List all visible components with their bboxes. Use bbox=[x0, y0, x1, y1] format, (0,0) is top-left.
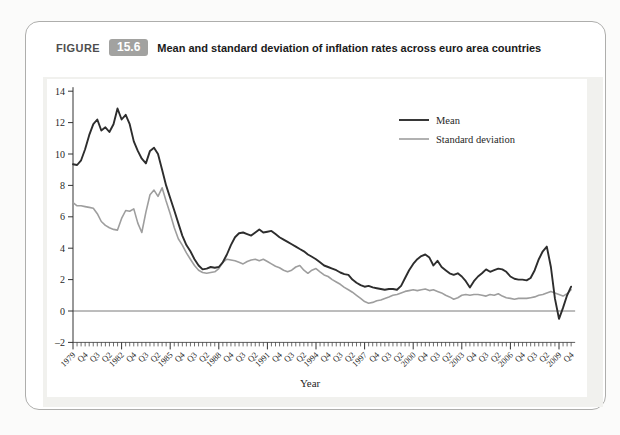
series-line-standard-deviation bbox=[73, 188, 571, 303]
figure-header: FIGURE 15.6 Mean and standard deviation … bbox=[56, 39, 593, 56]
x-tick-label: 1988 bbox=[204, 350, 223, 369]
legend-label-standard-deviation: Standard deviation bbox=[436, 134, 516, 145]
x-tick-label: 1994 bbox=[301, 349, 321, 369]
x-tick-label: 1985 bbox=[156, 350, 175, 369]
legend-label-mean: Mean bbox=[436, 115, 461, 126]
y-tick-label: 0 bbox=[60, 306, 65, 317]
y-tick-label: 12 bbox=[55, 117, 65, 128]
x-axis-title: Year bbox=[300, 377, 321, 389]
x-tick-label: 1997 bbox=[350, 350, 369, 369]
y-tick-label: 10 bbox=[55, 149, 65, 160]
inflation-chart: 14121086420–21979Q4Q3Q21982Q4Q3Q21985Q4Q… bbox=[47, 79, 587, 397]
y-tick-label: 4 bbox=[60, 243, 65, 254]
x-tick-label: 2003 bbox=[447, 350, 466, 369]
figure-card: FIGURE 15.6 Mean and standard deviation … bbox=[25, 21, 606, 410]
plot-area: 14121086420–21979Q4Q3Q21982Q4Q3Q21985Q4Q… bbox=[47, 79, 587, 397]
x-tick-label: 1991 bbox=[253, 350, 272, 369]
y-tick-label: 2 bbox=[60, 274, 65, 285]
x-tick-label: 1982 bbox=[107, 350, 126, 369]
y-tick-label: 6 bbox=[60, 211, 65, 222]
figure-title: Mean and standard deviation of inflation… bbox=[157, 42, 541, 54]
figure-number-badge: 15.6 bbox=[109, 39, 148, 56]
x-tick-label: 2009 bbox=[544, 350, 563, 369]
x-tick-label: 2000 bbox=[399, 350, 418, 369]
figure-label: FIGURE bbox=[56, 42, 100, 54]
y-tick-label: 8 bbox=[60, 180, 65, 191]
chart-panel: 14121086420–21979Q4Q3Q21982Q4Q3Q21985Q4Q… bbox=[43, 77, 603, 407]
x-tick-label: Q4 bbox=[561, 349, 576, 364]
y-tick-label: 14 bbox=[55, 86, 65, 97]
x-tick-label: 1979 bbox=[58, 350, 77, 369]
x-tick-label: 2006 bbox=[496, 350, 515, 369]
y-tick-label: –2 bbox=[54, 337, 65, 348]
